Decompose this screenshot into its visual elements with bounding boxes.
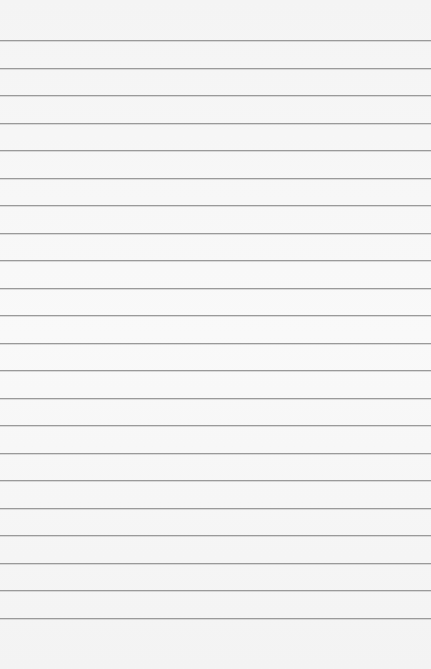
ruled-line <box>0 453 431 454</box>
ruled-line <box>0 260 431 261</box>
ruled-line <box>0 68 431 69</box>
ruled-line <box>0 288 431 289</box>
ruled-line <box>0 535 431 536</box>
ruled-line <box>0 315 431 316</box>
ruled-line <box>0 150 431 151</box>
ruled-line <box>0 205 431 206</box>
lined-paper <box>0 0 431 669</box>
ruled-line <box>0 618 431 619</box>
ruled-line <box>0 123 431 124</box>
ruled-line <box>0 590 431 591</box>
ruled-line <box>0 563 431 564</box>
ruled-line <box>0 508 431 509</box>
ruled-line <box>0 95 431 96</box>
ruled-line <box>0 425 431 426</box>
ruled-line <box>0 480 431 481</box>
ruled-line <box>0 178 431 179</box>
ruled-line <box>0 343 431 344</box>
ruled-line <box>0 233 431 234</box>
ruled-line <box>0 398 431 399</box>
ruled-line <box>0 370 431 371</box>
ruled-line <box>0 40 431 41</box>
